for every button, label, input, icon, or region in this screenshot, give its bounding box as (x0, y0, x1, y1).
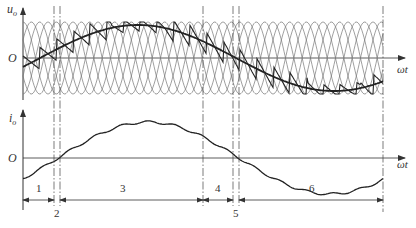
interval-label-3: 3 (120, 182, 126, 194)
top-panel: uo O ωt (7, 2, 409, 100)
io-label: io (9, 111, 16, 127)
interval-label-5: 5 (233, 207, 239, 219)
bottom-omega-t-label: ωt (397, 158, 409, 170)
uo-label: uo (7, 2, 17, 18)
interval-label-2: 2 (54, 207, 60, 219)
interval-label-1: 1 (36, 182, 42, 194)
top-omega-t-label: ωt (397, 63, 409, 75)
top-origin-label: O (8, 51, 17, 65)
cycloconverter-waveform-diagram: uo O ωt io O ωt 1 2 3 4 5 6 (0, 0, 416, 228)
bottom-origin-label: O (8, 151, 17, 165)
interval-label-4: 4 (215, 182, 221, 194)
interval-label-6: 6 (309, 182, 315, 194)
bottom-panel: io O ωt (8, 110, 409, 210)
